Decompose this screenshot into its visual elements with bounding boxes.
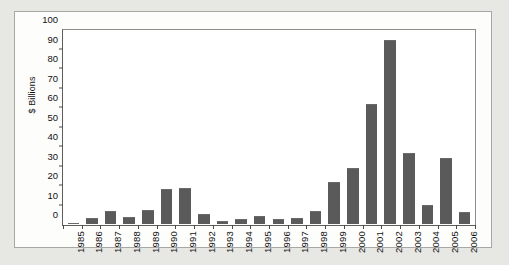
y-axis-title: $ Billions xyxy=(27,50,37,140)
bar-chart: $ Billions 0102030405060708090100 198519… xyxy=(15,12,493,249)
bar[interactable] xyxy=(291,218,303,224)
bar-slot xyxy=(455,31,474,224)
x-axis-tick-label: 1991 xyxy=(187,231,198,253)
y-axis-tick-mark xyxy=(59,68,63,69)
bar-slot xyxy=(232,31,251,224)
bar[interactable] xyxy=(347,168,359,224)
x-axis-tick-label: 1995 xyxy=(262,231,273,253)
bar-slot xyxy=(437,31,456,224)
bar-slot xyxy=(250,31,269,224)
bar[interactable] xyxy=(179,188,191,224)
x-axis-tick-mark xyxy=(175,225,176,229)
bar-slot xyxy=(64,31,83,224)
bar-slot xyxy=(120,31,139,224)
x-axis-tick-label: 2003 xyxy=(412,231,423,253)
bar[interactable] xyxy=(86,218,98,224)
bar-slot xyxy=(176,31,195,224)
bar[interactable] xyxy=(384,40,396,224)
bar-slot xyxy=(381,31,400,224)
bar[interactable] xyxy=(68,223,80,224)
bar[interactable] xyxy=(459,212,471,224)
x-axis-tick-mark xyxy=(363,225,364,229)
x-axis-tick-mark xyxy=(344,225,345,229)
x-axis-tick-label: 1994 xyxy=(243,231,254,253)
x-axis-tick-label: 1987 xyxy=(112,231,123,253)
bar[interactable] xyxy=(273,219,285,224)
bar-slot xyxy=(139,31,158,224)
bar-slot xyxy=(306,31,325,224)
bar[interactable] xyxy=(123,217,135,224)
bar[interactable] xyxy=(254,216,266,224)
y-axis-tick-label: 80 xyxy=(47,53,63,64)
bar-slot xyxy=(418,31,437,224)
bar[interactable] xyxy=(105,211,117,225)
bar[interactable] xyxy=(422,205,434,224)
bar-slot xyxy=(399,31,418,224)
bar[interactable] xyxy=(440,158,452,224)
bar[interactable] xyxy=(198,214,210,224)
x-axis-tick-label: 2005 xyxy=(449,231,460,253)
y-axis-tick-label: 0 xyxy=(53,209,63,220)
bar-slot xyxy=(325,31,344,224)
x-axis-tick-mark xyxy=(419,225,420,229)
plot-area: 0102030405060708090100 19851986198719881… xyxy=(62,29,476,226)
bar[interactable] xyxy=(328,182,340,224)
x-axis-tick-mark xyxy=(438,225,439,229)
y-axis-tick-label: 100 xyxy=(42,14,63,25)
x-axis-tick-label: 1997 xyxy=(299,231,310,253)
bar[interactable] xyxy=(366,104,378,224)
y-axis-tick-mark xyxy=(59,48,63,49)
x-axis-tick-mark xyxy=(250,225,251,229)
x-axis-tick-mark xyxy=(100,225,101,229)
x-axis-tick-mark xyxy=(456,225,457,229)
bar-slot xyxy=(101,31,120,224)
x-axis-tick-label: 2002 xyxy=(393,231,404,253)
bar[interactable] xyxy=(235,219,247,224)
x-axis-tick-mark xyxy=(325,225,326,229)
bar[interactable] xyxy=(310,211,322,224)
bar-slot xyxy=(194,31,213,224)
x-axis-tick-label: 2001 xyxy=(374,231,385,253)
bar-slot xyxy=(157,31,176,224)
x-axis-tick-mark xyxy=(138,225,139,229)
x-axis-tick-label: 1986 xyxy=(93,231,104,253)
y-axis-tick-label: 10 xyxy=(47,189,63,200)
x-axis-tick-mark xyxy=(232,225,233,229)
bar[interactable] xyxy=(217,221,229,224)
y-axis-tick-mark xyxy=(59,165,63,166)
y-axis-tick-mark xyxy=(59,185,63,186)
x-axis-tick-mark xyxy=(288,225,289,229)
x-axis-tick-label: 2004 xyxy=(430,231,441,253)
bar-slot xyxy=(362,31,381,224)
x-axis-tick-label: 1993 xyxy=(224,231,235,253)
y-axis-tick-mark xyxy=(59,204,63,205)
x-axis-tick-mark xyxy=(119,225,120,229)
y-axis-tick-mark xyxy=(59,87,63,88)
bar-slot xyxy=(344,31,363,224)
bar-slot xyxy=(83,31,102,224)
x-axis-tick-mark xyxy=(400,225,401,229)
x-axis-tick-label: 1988 xyxy=(131,231,142,253)
x-axis-tick-mark xyxy=(269,225,270,229)
x-axis-tick-mark xyxy=(381,225,382,229)
x-axis-tick-label: 2006 xyxy=(468,231,479,253)
y-axis-tick-label: 70 xyxy=(47,72,63,83)
x-axis-tick-label: 1998 xyxy=(318,231,329,253)
bar[interactable] xyxy=(403,153,415,224)
figure-panel: $ Billions 0102030405060708090100 198519… xyxy=(14,11,492,248)
bar-slot xyxy=(288,31,307,224)
y-axis-tick-label: 60 xyxy=(47,92,63,103)
bar-slot xyxy=(269,31,288,224)
x-axis-tick-label: 1999 xyxy=(337,231,348,253)
x-axis-tick-mark xyxy=(157,225,158,229)
x-axis-tick-label: 1992 xyxy=(206,231,217,253)
figure-root: $ Billions 0102030405060708090100 198519… xyxy=(0,0,509,265)
x-axis-tick-label: 1996 xyxy=(281,231,292,253)
x-axis-tick-mark xyxy=(82,225,83,229)
x-axis-tick-mark xyxy=(194,225,195,229)
y-axis-tick-mark xyxy=(59,146,63,147)
bar[interactable] xyxy=(142,210,154,224)
y-axis-tick-label: 40 xyxy=(47,131,63,142)
bar[interactable] xyxy=(161,189,173,224)
x-axis-tick-mark xyxy=(475,225,476,229)
